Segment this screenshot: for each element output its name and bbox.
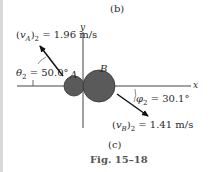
velocity-b-label: (vB)2 = 1.41 m/s <box>112 120 193 133</box>
phi-label: φ2 = 30.1° <box>136 94 190 107</box>
theta-label: θ2 = 50.0° <box>16 68 69 81</box>
velocity-a-label: (vA)2 = 1.96 m/s <box>16 30 97 43</box>
ball-a-label: A <box>70 70 77 80</box>
sublabel-c: (c) <box>108 140 121 150</box>
sublabel-b: (b) <box>110 4 124 14</box>
figure-caption: Fig. 15–18 <box>90 155 148 165</box>
theta-arc <box>38 57 46 64</box>
collision-diagram <box>0 0 213 172</box>
x-axis-label: x <box>193 81 198 90</box>
ball-b-label: B <box>100 64 107 74</box>
ball-b <box>83 70 115 102</box>
